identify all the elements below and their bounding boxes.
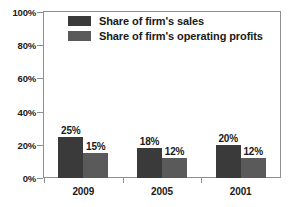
y-tick-mark [37, 112, 43, 113]
y-tick-mark [37, 145, 43, 146]
legend-item: Share of firm's sales [68, 14, 263, 28]
bar-value-label: 12% [165, 146, 184, 157]
legend-label: Share of firm's sales [99, 15, 204, 27]
bar [241, 158, 266, 178]
bar-value-label: 12% [243, 146, 262, 157]
bar-chart: 0%20%40%60%80%100% 25%15%18%12%20%12% Sh… [0, 0, 289, 207]
x-tick-label: 2005 [151, 186, 173, 197]
bar [216, 145, 241, 178]
bar-value-label: 20% [218, 133, 237, 144]
bar [58, 137, 83, 179]
bar-value-label: 15% [86, 141, 105, 152]
x-tick-label: 2001 [230, 186, 252, 197]
legend-swatch-icon [68, 16, 91, 26]
y-tick-mark [37, 45, 43, 46]
y-tick-label: 80% [0, 41, 36, 50]
y-tick-label: 0% [0, 174, 36, 183]
bar [162, 158, 187, 178]
x-tick-mark [201, 178, 202, 183]
bar [137, 148, 162, 178]
bar [83, 153, 108, 178]
bar-value-label: 18% [140, 136, 159, 147]
legend-label: Share of firm's operating profits [99, 30, 263, 42]
y-tick-label: 100% [0, 8, 36, 17]
x-tick-label: 2009 [72, 186, 94, 197]
y-tick-label: 20% [0, 140, 36, 149]
y-axis: 0%20%40%60%80%100% [0, 0, 36, 207]
y-tick-mark [37, 178, 43, 179]
y-tick-mark [37, 12, 43, 13]
legend-item: Share of firm's operating profits [68, 29, 263, 43]
bar-value-label: 25% [61, 125, 80, 136]
legend-swatch-icon [68, 31, 91, 41]
x-tick-mark [123, 178, 124, 183]
y-tick-label: 40% [0, 107, 36, 116]
x-tick-mark [44, 178, 45, 183]
y-tick-mark [37, 78, 43, 79]
y-tick-label: 60% [0, 74, 36, 83]
chart-legend: Share of firm's salesShare of firm's ope… [68, 14, 263, 44]
